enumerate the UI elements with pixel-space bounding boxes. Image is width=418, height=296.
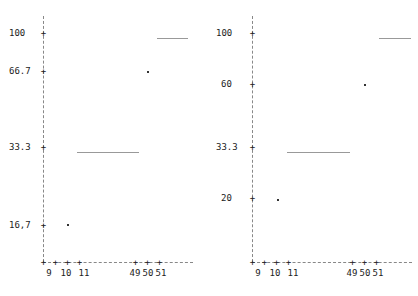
x-tick: + bbox=[40, 258, 47, 267]
y-axis bbox=[252, 16, 253, 262]
right-chart: + + + + 100 60 33.3 20 + + + + + + + 9 1… bbox=[209, 0, 418, 296]
y-label: 16,7 bbox=[9, 220, 31, 230]
data-segment bbox=[157, 38, 188, 39]
y-label: 66.7 bbox=[9, 66, 31, 76]
y-label: 20 bbox=[221, 193, 232, 203]
data-segment bbox=[379, 38, 411, 39]
y-tick: + bbox=[40, 67, 47, 76]
y-label: 100 bbox=[9, 28, 25, 38]
x-label: 10 bbox=[265, 268, 285, 278]
x-tick: + bbox=[144, 258, 151, 267]
data-segment bbox=[287, 152, 350, 153]
left-chart: + + + + 100 66.7 33.3 16,7 + + + + + + +… bbox=[0, 0, 209, 296]
data-point bbox=[147, 71, 149, 73]
y-label: 100 bbox=[216, 28, 232, 38]
y-tick: + bbox=[249, 194, 256, 203]
x-label: 51 bbox=[368, 268, 388, 278]
y-tick: + bbox=[40, 143, 47, 152]
y-tick: + bbox=[40, 29, 47, 38]
x-tick: + bbox=[349, 258, 356, 267]
x-tick: + bbox=[76, 258, 83, 267]
x-tick: + bbox=[261, 258, 268, 267]
x-label: 51 bbox=[151, 268, 171, 278]
x-tick: + bbox=[249, 258, 256, 267]
x-tick: + bbox=[52, 258, 59, 267]
x-label: 11 bbox=[283, 268, 303, 278]
y-label: 33.3 bbox=[216, 142, 238, 152]
y-tick: + bbox=[249, 80, 256, 89]
data-point bbox=[67, 224, 69, 226]
x-tick: + bbox=[373, 258, 380, 267]
x-tick: + bbox=[273, 258, 280, 267]
y-tick: + bbox=[249, 29, 256, 38]
data-segment bbox=[77, 152, 139, 153]
y-label: 60 bbox=[221, 79, 232, 89]
y-label: 33.3 bbox=[9, 142, 31, 152]
y-tick: + bbox=[40, 221, 47, 230]
data-point bbox=[364, 84, 366, 86]
x-label: 11 bbox=[74, 268, 94, 278]
x-tick: + bbox=[285, 258, 292, 267]
x-tick: + bbox=[156, 258, 163, 267]
x-tick: + bbox=[361, 258, 368, 267]
x-label: 10 bbox=[56, 268, 76, 278]
x-tick: + bbox=[132, 258, 139, 267]
x-tick: + bbox=[64, 258, 71, 267]
data-point bbox=[277, 199, 279, 201]
y-tick: + bbox=[249, 143, 256, 152]
